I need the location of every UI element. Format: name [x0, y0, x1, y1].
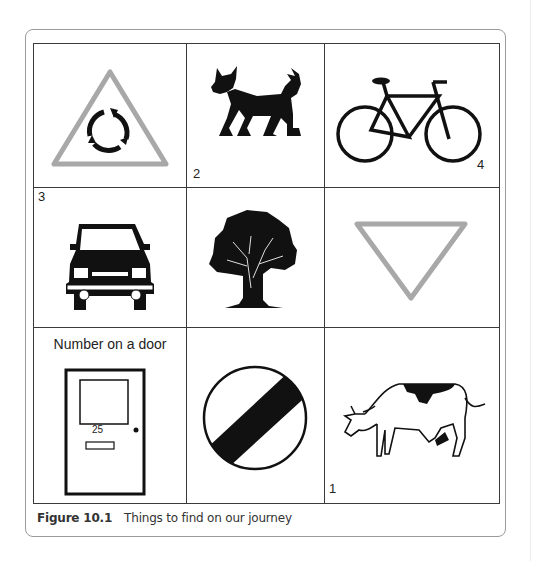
- bicycle-icon: [325, 44, 500, 187]
- tree-icon: [187, 188, 324, 327]
- cow-icon: [325, 328, 500, 504]
- cell-car: 3: [34, 188, 186, 327]
- figure-caption: Figure 10.1Things to find on our journey: [37, 511, 292, 525]
- door-number: 25: [92, 424, 103, 435]
- door-icon: [34, 328, 186, 504]
- cell-roundabout: [34, 44, 186, 187]
- roundabout-warning-sign-icon: [34, 44, 186, 187]
- figure-caption-text: Things to find on our journey: [124, 511, 292, 525]
- picture-grid: 2 4 3: [33, 43, 500, 504]
- cell-tree: [187, 188, 324, 327]
- cell-speed-limit: [187, 328, 324, 504]
- cell-bicycle: 4: [325, 44, 500, 187]
- cell-give-way: [325, 188, 500, 327]
- dog-icon: [187, 44, 324, 187]
- figure-label: Figure 10.1: [37, 511, 112, 525]
- cell-number: 4: [477, 157, 484, 172]
- cell-number: 1: [329, 481, 336, 496]
- cell-cow: 1: [325, 328, 500, 504]
- page-edge: [530, 0, 531, 561]
- car-icon: [34, 188, 186, 327]
- give-way-sign-icon: [325, 188, 500, 327]
- cell-dog: 2: [187, 44, 324, 187]
- national-speed-limit-sign-icon: [187, 328, 324, 504]
- cell-number: 2: [193, 166, 200, 181]
- cell-door: Number on a door 25: [34, 328, 186, 504]
